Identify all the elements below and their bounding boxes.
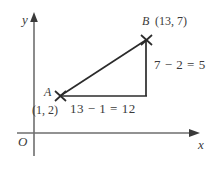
point-a-name-label: A: [44, 86, 51, 98]
coordinate-geometry-figure: y x O B (13, 7) A (1, 2) 7 − 2 = 5 13 − …: [0, 0, 217, 170]
vertical-leg-length-label: 7 − 2 = 5: [154, 58, 206, 71]
x-axis-label: x: [198, 138, 204, 151]
x-axis-arrowhead-icon: [189, 129, 200, 137]
point-b-coord-label: (13, 7): [155, 15, 187, 27]
origin-label: O: [18, 135, 27, 148]
horizontal-leg-length-label: 13 − 1 = 12: [70, 102, 136, 115]
y-axis-arrowhead-icon: [30, 12, 38, 22]
hypotenuse-segment-ab: [60, 40, 146, 96]
y-axis-label: y: [22, 13, 28, 26]
triangle: [60, 40, 147, 96]
x-axis: [17, 129, 200, 137]
point-a-coord-label: (1, 2): [32, 104, 58, 116]
y-axis: [30, 12, 38, 156]
point-b-name-label: B: [142, 15, 149, 27]
